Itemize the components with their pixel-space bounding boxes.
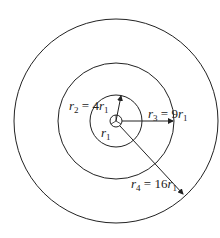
label-r3: r3 = 9r1 bbox=[148, 106, 187, 123]
label-r1: r1 bbox=[101, 125, 111, 142]
label-r2: r2 = 4r1 bbox=[69, 98, 108, 115]
r1-spoke-right bbox=[116, 121, 121, 124]
label-r4: r4 = 16r1 bbox=[131, 176, 177, 193]
r1-spoke-left bbox=[111, 121, 116, 124]
concentric-circles-diagram: r2 = 4r1 r1 r3 = 9r1 r4 = 16r1 bbox=[0, 0, 220, 238]
